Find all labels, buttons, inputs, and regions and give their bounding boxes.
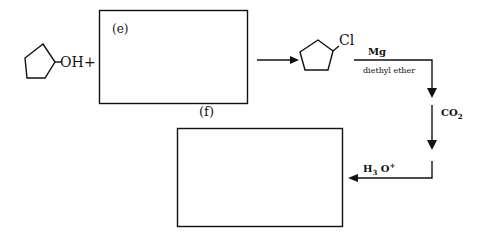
box-f-label: (f) — [199, 104, 214, 119]
reaction-scheme — [0, 0, 479, 241]
cyclopentane-ring-product — [300, 40, 333, 70]
mg-reagent-label: Mg — [368, 46, 386, 57]
co2-reagent-label: CO2 — [441, 107, 463, 121]
oh-label: OH — [60, 54, 84, 70]
answer-box-f — [178, 129, 343, 227]
reaction-arrow-2 — [354, 60, 432, 90]
cl-label: Cl — [339, 32, 354, 48]
cyclopentane-ring-reactant — [25, 44, 55, 78]
h3o-reagent-label: H3 O+ — [363, 161, 395, 177]
plus-sign: + — [84, 54, 96, 70]
box-e-label: (e) — [112, 22, 128, 36]
diethyl-ether-label: diethyl ether — [363, 66, 415, 75]
